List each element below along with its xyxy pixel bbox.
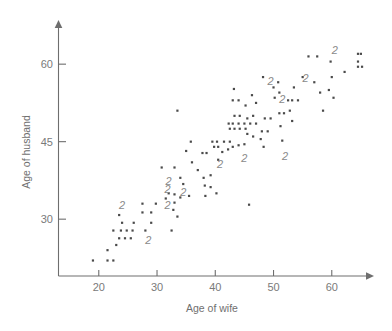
data-point	[277, 81, 279, 83]
data-point	[112, 259, 114, 261]
overlap-count-label: 2	[240, 152, 247, 164]
data-point	[144, 229, 146, 231]
data-point	[204, 184, 206, 186]
data-point	[237, 122, 239, 124]
data-point	[232, 99, 234, 101]
data-point	[239, 115, 241, 117]
y-tick-label: 60	[41, 58, 53, 70]
data-point	[121, 222, 123, 224]
data-point	[278, 112, 280, 114]
data-points-group	[92, 53, 363, 262]
data-point	[133, 222, 135, 224]
data-point	[204, 195, 206, 197]
data-point	[217, 146, 219, 148]
data-point	[248, 204, 250, 206]
data-point	[141, 203, 143, 205]
overlap-count-label: 2	[278, 93, 285, 105]
data-point	[155, 203, 157, 205]
data-point	[233, 128, 235, 130]
data-point	[262, 76, 264, 78]
data-point	[150, 211, 152, 213]
data-point	[221, 151, 223, 153]
data-point	[357, 53, 359, 55]
data-point	[115, 244, 117, 246]
data-point	[112, 229, 114, 231]
data-point	[203, 177, 205, 179]
data-point	[252, 115, 254, 117]
data-point	[185, 150, 187, 152]
y-tick-label: 30	[41, 213, 53, 225]
data-point	[360, 53, 362, 55]
data-point	[197, 169, 199, 171]
data-point	[130, 237, 132, 239]
overlap-labels-group: 2222222222222	[118, 44, 338, 246]
data-point	[343, 71, 345, 73]
overlap-count-label: 2	[216, 158, 223, 170]
data-point	[201, 152, 203, 154]
data-point	[307, 55, 309, 57]
data-point	[150, 222, 152, 224]
data-point	[179, 177, 181, 179]
data-point	[289, 110, 291, 112]
y-axis-title: Age of husband	[20, 115, 32, 189]
data-point	[251, 94, 253, 96]
data-point	[188, 195, 190, 197]
data-point	[172, 209, 174, 211]
data-point	[215, 192, 217, 194]
data-point	[182, 183, 184, 185]
data-point	[237, 144, 239, 146]
data-point	[293, 86, 295, 88]
data-point	[281, 140, 283, 142]
data-point	[287, 99, 289, 101]
data-point	[118, 214, 120, 216]
data-point	[233, 115, 235, 117]
y-axis-arrow-icon	[55, 20, 63, 28]
data-point	[173, 193, 175, 195]
data-point	[124, 237, 126, 239]
data-point	[191, 161, 193, 163]
data-point	[255, 122, 257, 124]
data-point	[244, 128, 246, 130]
data-point	[246, 117, 248, 119]
data-point	[210, 186, 212, 188]
data-point	[357, 66, 359, 68]
data-point	[205, 152, 207, 154]
x-axis-title: Age of wife	[186, 302, 238, 314]
data-point	[106, 259, 108, 261]
data-point	[228, 122, 230, 124]
data-point	[161, 166, 163, 168]
data-point	[331, 76, 333, 78]
data-point	[237, 99, 239, 101]
data-point	[229, 141, 231, 143]
data-point	[173, 202, 175, 204]
data-point	[244, 104, 246, 106]
data-point	[227, 148, 229, 150]
y-tick-label: 45	[41, 136, 53, 148]
overlap-count-label: 2	[165, 175, 172, 187]
overlap-count-label: 2	[267, 75, 274, 87]
data-point	[106, 249, 108, 251]
data-point	[118, 237, 120, 239]
data-point	[279, 125, 281, 127]
data-point	[264, 117, 266, 119]
data-point	[361, 66, 363, 68]
data-point	[170, 229, 172, 231]
overlap-count-label: 2	[163, 199, 170, 211]
axes-group	[55, 20, 374, 280]
data-point	[267, 130, 269, 132]
data-point	[260, 138, 262, 140]
data-point	[313, 81, 315, 83]
data-point	[120, 229, 122, 231]
data-point	[263, 146, 265, 148]
data-point	[249, 122, 251, 124]
data-point	[332, 97, 334, 99]
scatter-plot-figure: 2030405060 304560 2222222222222 Age of w…	[0, 0, 392, 331]
data-point	[291, 120, 293, 122]
data-point	[223, 141, 225, 143]
overlap-count-label: 2	[331, 44, 338, 56]
data-point	[213, 146, 215, 148]
data-point	[319, 91, 321, 93]
data-point	[92, 259, 94, 261]
data-point	[126, 229, 128, 231]
data-point	[216, 141, 218, 143]
